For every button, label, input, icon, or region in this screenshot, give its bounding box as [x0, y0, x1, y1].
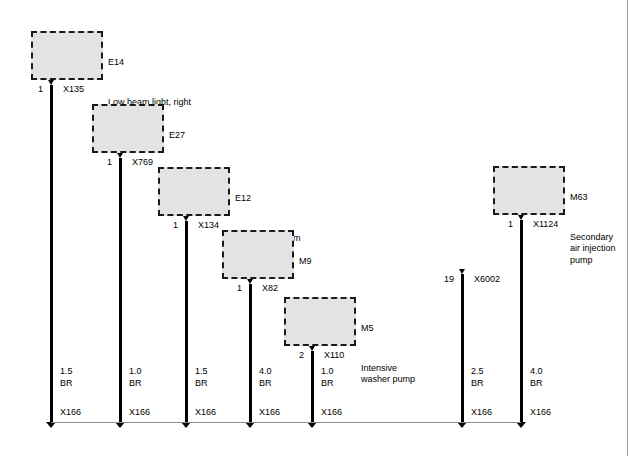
component-code-e27: E27 — [169, 130, 224, 142]
component-label-m63: M63 Secondary air injection pump — [570, 169, 616, 289]
component-label-m5: M5 Intensive washer pump — [361, 300, 415, 409]
connector-id-x134: X134 — [198, 220, 219, 230]
ground-bus — [51, 422, 521, 423]
wire-color-e14: BR — [60, 378, 73, 388]
wire-spec-m5: 1.0BR — [321, 366, 334, 389]
wire-spec-x6002: 2.5BR — [471, 366, 484, 389]
component-desc-m63: Secondary air injection pump — [570, 232, 616, 267]
component-code-e12: E12 — [235, 193, 301, 205]
wire-size-m63: 4.0 — [530, 366, 543, 376]
pin-number-x6002: 19 — [437, 274, 454, 284]
wire-size-e14: 1.5 — [60, 366, 73, 376]
wiring-diagram: E14 Low beam light, right 1 X135 1.5BR X… — [0, 0, 642, 456]
wire-e27 — [119, 158, 122, 422]
wire-size-m9: 4.0 — [259, 366, 272, 376]
connector-id-x1124: X1124 — [533, 219, 558, 229]
wire-spec-e14: 1.5BR — [60, 366, 73, 389]
connector-id-x82: X82 — [262, 283, 278, 293]
component-desc-m5: Intensive washer pump — [361, 363, 415, 386]
wire-e12 — [185, 221, 188, 422]
ground-label-e27: X166 — [129, 407, 150, 417]
pin-number-x135: 1 — [30, 84, 43, 94]
wire-m5 — [311, 351, 314, 422]
connector-id-x6002: X6002 — [474, 274, 500, 284]
page-border — [627, 0, 628, 456]
wire-color-m5: BR — [321, 378, 334, 388]
wire-color-x6002: BR — [471, 378, 484, 388]
wire-spec-m63: 4.0BR — [530, 366, 543, 389]
pin-number-x769: 1 — [99, 157, 112, 167]
connector-id-x769: X769 — [132, 157, 153, 167]
component-box-m9 — [222, 230, 294, 279]
ground-label-e12: X166 — [195, 407, 216, 417]
component-box-e14 — [31, 31, 103, 80]
wire-size-x6002: 2.5 — [471, 366, 484, 376]
component-code-m9: M9 — [299, 256, 346, 268]
pin-number-x134: 1 — [165, 220, 178, 230]
wire-spec-e27: 1.0BR — [129, 366, 142, 389]
ground-label-m9: X166 — [259, 407, 280, 417]
ground-label-x6002: X166 — [471, 407, 492, 417]
connector-id-x135: X135 — [63, 84, 84, 94]
wire-m9 — [249, 284, 252, 422]
wire-color-e12: BR — [195, 378, 208, 388]
ground-label-e14: X166 — [60, 407, 81, 417]
wire-color-m63: BR — [530, 378, 543, 388]
wire-m63 — [520, 220, 523, 422]
wire-spec-m9: 4.0BR — [259, 366, 272, 389]
wire-x6002 — [461, 274, 464, 422]
pin-number-x82: 1 — [229, 283, 242, 293]
wire-e14 — [50, 85, 53, 422]
wire-spec-e12: 1.5BR — [195, 366, 208, 389]
pin-number-x1124: 1 — [500, 219, 513, 229]
wire-size-e12: 1.5 — [195, 366, 208, 376]
wire-color-m9: BR — [259, 378, 272, 388]
wire-size-m5: 1.0 — [321, 366, 334, 376]
wire-color-e27: BR — [129, 378, 142, 388]
wire-size-e27: 1.0 — [129, 366, 142, 376]
component-code-e14: E14 — [108, 57, 191, 69]
component-box-e12 — [158, 167, 230, 216]
ground-label-m63: X166 — [530, 407, 551, 417]
component-box-e27 — [92, 104, 164, 153]
component-code-m5: M5 — [361, 323, 415, 335]
pin-number-x110: 2 — [291, 350, 304, 360]
component-code-m63: M63 — [570, 192, 616, 204]
ground-label-m5: X166 — [321, 407, 342, 417]
component-box-m63 — [493, 166, 565, 215]
component-box-m5 — [284, 297, 356, 346]
connector-id-x110: X110 — [324, 350, 344, 360]
